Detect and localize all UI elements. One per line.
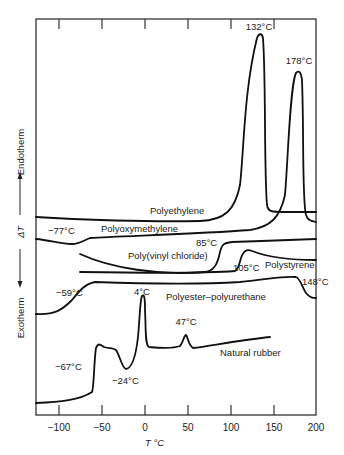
x-tick-label: 0 [142,422,148,433]
x-tick-label: −100 [48,422,71,433]
x-tick-label: 200 [308,422,325,433]
x-axis-title: T °C [145,437,164,448]
pom-tg-label: −77°C [48,225,75,236]
pvc-tg-label: 85°C [196,237,217,248]
endotherm-label: Endotherm [15,129,26,176]
pe-peak-label: 132°C [246,21,273,32]
y-axis-annotation: Endotherm ΔT Exotherm [15,129,26,339]
x-tick-label: 50 [182,422,194,433]
nr-melt1-label: 4°C [134,286,150,297]
x-tick-label: 100 [223,422,240,433]
polyoxymethylene-label: Polyoxymethylene [101,223,178,234]
x-axis-ticks [59,405,274,415]
ps-tg-label: 105°C [233,262,260,273]
pu-tg-label: −59°C [56,287,83,298]
delta-t-label: ΔT [15,225,26,239]
natural-rubber-label: Natural rubber [220,347,281,358]
polyoxymethylene-curve [36,72,316,244]
nr-tg-label: −67°C [55,361,82,372]
nr-cryst-label: −24°C [112,375,139,386]
polystyrene-label: Polystyrene [265,259,315,270]
dsc-chart: −100 −50 0 50 100 150 200 T °C Endotherm… [0,0,344,455]
polyethylene-label: Polyethylene [150,205,204,216]
pvc-label: Poly(vinyl chloride) [128,250,208,261]
pu-step-label: 148°C [302,276,329,287]
pom-peak-label: 178°C [286,55,313,66]
exotherm-label: Exotherm [15,298,26,339]
x-tick-label: 150 [266,422,283,433]
x-axis-top-ticks [59,19,274,29]
polyester-polyurethane-label: Polyester–polyurethane [166,291,266,302]
polyethylene-curve [36,34,316,221]
x-tick-label: −50 [94,422,111,433]
arrow-down-icon [18,281,23,288]
nr-melt2-label: 47°C [175,316,196,327]
